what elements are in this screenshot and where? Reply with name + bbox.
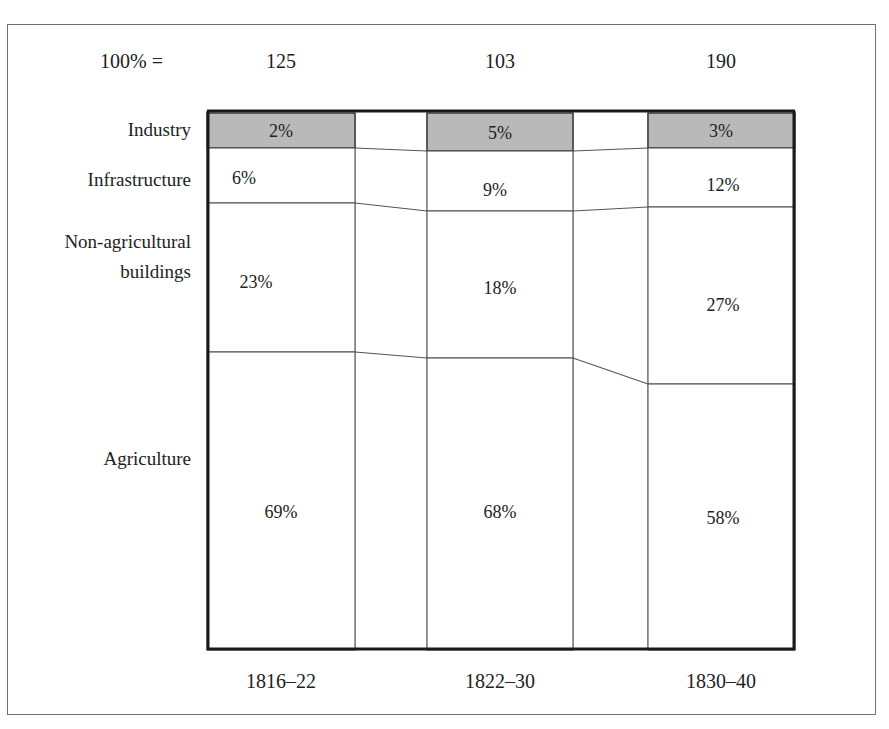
row-label-infrastructure: Infrastructure	[88, 169, 191, 190]
bar-column-1822-30[interactable]: 5% 9% 18% 68%	[427, 113, 573, 650]
marimekko-stacked-chart: 100% = 125 103 190	[0, 0, 889, 729]
header-total-2: 190	[706, 50, 736, 72]
value-nonagricultural-bar0: 23%	[240, 272, 273, 292]
segment-agriculture-bar0[interactable]	[207, 352, 355, 650]
x-axis-label-0: 1816–22	[246, 670, 316, 692]
value-agriculture-bar1: 68%	[484, 502, 517, 522]
x-axis-labels: 1816–22 1822–30 1830–40	[246, 670, 756, 692]
band-line-infrastructure-bottom-1	[355, 203, 427, 211]
value-nonagricultural-bar2: 27%	[707, 295, 740, 315]
header-total-0: 125	[266, 50, 296, 72]
value-industry-bar1: 5%	[488, 123, 512, 143]
chart-page: 100% = 125 103 190	[0, 0, 889, 729]
row-label-industry: Industry	[128, 119, 192, 140]
value-agriculture-bar0: 69%	[265, 502, 298, 522]
value-agriculture-bar2: 58%	[707, 508, 740, 528]
header-total-1: 103	[485, 50, 515, 72]
value-industry-bar0: 2%	[269, 121, 293, 141]
value-infrastructure-bar2: 12%	[707, 175, 740, 195]
value-infrastructure-bar0: 6%	[232, 168, 256, 188]
header-totals-row: 100% = 125 103 190	[100, 50, 736, 72]
value-infrastructure-bar1: 9%	[483, 180, 507, 200]
row-label-non-agricultural-buildings-line1: Non-agricultural	[64, 231, 191, 252]
value-industry-bar2: 3%	[709, 121, 733, 141]
segment-infrastructure-bar0[interactable]	[207, 148, 355, 203]
band-line-nonag-bottom-2	[573, 358, 648, 384]
band-industry-gap-2	[573, 113, 648, 151]
row-label-non-agricultural-buildings-line2: buildings	[120, 261, 191, 282]
band-line-nonag-bottom-1	[355, 352, 427, 358]
category-row-labels: Industry Infrastructure Non-agricultural…	[64, 119, 191, 469]
row-label-agriculture: Agriculture	[103, 448, 191, 469]
header-100-percent-label: 100% =	[100, 50, 163, 72]
segment-nonagricultural-bar0[interactable]	[207, 203, 355, 352]
band-industry-gap-1	[355, 113, 427, 151]
bar-column-1830-40[interactable]: 3% 12% 27% 58%	[648, 113, 795, 650]
band-line-infrastructure-bottom-2	[573, 207, 648, 211]
value-nonagricultural-bar1: 18%	[484, 278, 517, 298]
x-axis-label-1: 1822–30	[465, 670, 535, 692]
bar-column-1816-22[interactable]: 2% 6% 23% 69%	[207, 113, 355, 650]
x-axis-label-2: 1830–40	[686, 670, 756, 692]
